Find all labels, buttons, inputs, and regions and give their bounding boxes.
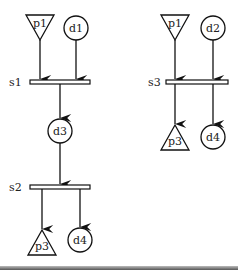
left-transition-s1: s1: [9, 76, 90, 89]
right-node-d2: d2: [201, 16, 225, 40]
left-diagram: p1 d1 s1 d3 s2: [9, 15, 92, 255]
right-node-p3: p3: [161, 125, 189, 150]
node-label-d3: d3: [53, 125, 67, 138]
node-label-p3: p3: [35, 240, 49, 253]
node-label-d2: d2: [206, 22, 220, 35]
node-label-d4: d4: [73, 234, 87, 247]
left-node-d3: d3: [48, 119, 72, 143]
left-node-d4: d4: [68, 228, 92, 252]
left-node-d1: d1: [64, 16, 88, 40]
right-diagram: p1 d2 s3 p3 d4: [148, 15, 228, 150]
node-label-d4: d4: [206, 131, 220, 144]
diagram-canvas: p1 d1 s1 d3 s2: [0, 0, 238, 270]
transition-label-s1: s1: [9, 76, 22, 89]
transition-bar: [30, 80, 90, 84]
right-node-p1: p1: [161, 15, 189, 40]
left-node-p3: p3: [28, 230, 56, 255]
node-label-p1: p1: [168, 17, 182, 30]
bottom-divider: [0, 266, 238, 270]
transition-label-s2: s2: [9, 181, 22, 194]
node-label-p3: p3: [168, 135, 182, 148]
right-transition-s3: s3: [148, 76, 228, 89]
transition-bar: [30, 185, 90, 189]
transition-label-s3: s3: [148, 76, 161, 89]
node-label-p1: p1: [33, 17, 47, 30]
left-transition-s2: s2: [9, 181, 90, 194]
node-label-d1: d1: [69, 22, 83, 35]
right-node-d4: d4: [201, 125, 225, 149]
transition-bar: [166, 80, 228, 84]
left-node-p1: p1: [26, 15, 54, 40]
